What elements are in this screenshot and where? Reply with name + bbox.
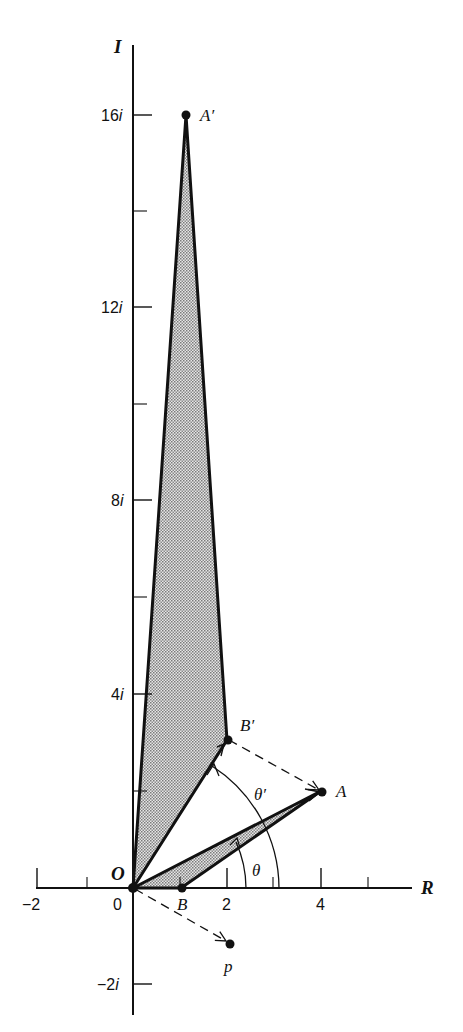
- label-theta: θ: [252, 861, 260, 880]
- label-B-prime: B′: [240, 716, 254, 735]
- x-tick-label: −2: [22, 896, 40, 913]
- dashed-vector-B-prime-to-A: [229, 740, 319, 790]
- point-B-prime: [224, 736, 233, 745]
- label-theta-prime: θ′: [254, 785, 266, 804]
- point-A: [318, 788, 327, 797]
- y-tick-label: −2i: [97, 976, 119, 993]
- x-axis-label: R: [420, 877, 434, 898]
- label-A: A: [335, 782, 347, 801]
- label-p: p: [223, 957, 233, 976]
- label-O: O: [111, 863, 125, 884]
- x-tick-label: 2: [222, 896, 231, 913]
- y-axis-label: I: [113, 36, 122, 57]
- point-A-prime: [182, 111, 191, 120]
- triangle-OA-prime-B-prime: [133, 115, 227, 888]
- point-p: [226, 940, 235, 949]
- complex-plane-diagram: O A B A′ B′ p θ θ′ I R −2 0 2 4 16i 12i …: [0, 0, 463, 1032]
- y-tick-label: 4i: [111, 686, 124, 703]
- point-O: [128, 883, 138, 893]
- label-A-prime: A′: [199, 106, 214, 125]
- y-tick-label: 16i: [101, 107, 123, 124]
- y-tick-label: 8i: [111, 492, 124, 509]
- y-tick-label: 12i: [101, 299, 123, 316]
- real-axis: [36, 868, 412, 888]
- x-tick-label: 4: [316, 896, 325, 913]
- label-B: B: [177, 895, 188, 914]
- x-tick-label: 0: [113, 896, 122, 913]
- point-B: [178, 884, 187, 893]
